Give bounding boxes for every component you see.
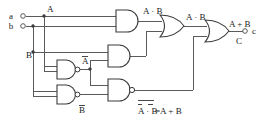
label-demorgan-right: =A + B: [155, 106, 182, 116]
label-not-A: A: [82, 56, 89, 66]
label-or1-output: A · B: [186, 12, 206, 22]
label-final-output: A + B: [229, 19, 251, 29]
label-input-a: a: [9, 11, 13, 21]
logic-circuit-diagram: a b A B A B A · B A · B A + B c C A · B …: [0, 0, 265, 122]
nand-bottom-bubble: [129, 87, 134, 92]
inverter-b-bubble: [75, 92, 80, 97]
label-not-B: B: [79, 105, 85, 115]
label-signal-B: B: [26, 50, 32, 60]
label-output-C: C: [236, 36, 242, 46]
inverter-a-bubble: [75, 67, 80, 72]
junction-dot-notA: [88, 67, 91, 70]
label-and-top-output: A · B: [143, 6, 163, 16]
input-terminals: [21, 14, 26, 29]
or-gate-2-final[interactable]: [205, 20, 229, 42]
or-gate-1[interactable]: [160, 15, 184, 37]
nand-gate-inverter-a[interactable]: [57, 60, 80, 79]
input-terminal-a[interactable]: [21, 14, 26, 19]
junction-dot-A: [42, 14, 45, 17]
label-input-b: b: [9, 21, 14, 31]
and-gate-top[interactable]: [116, 10, 138, 32]
and-gate-middle[interactable]: [108, 45, 130, 67]
label-signal-A: A: [47, 4, 54, 14]
junction-dot-B: [31, 24, 34, 27]
output-terminal-c[interactable]: [243, 29, 248, 34]
nand-gate-inverter-b[interactable]: [57, 85, 80, 104]
input-terminal-b[interactable]: [21, 24, 26, 29]
output-terminal-group: [243, 29, 248, 34]
nand-gate-bottom[interactable]: [108, 79, 135, 101]
label-output-terminal-c: c: [252, 26, 256, 36]
